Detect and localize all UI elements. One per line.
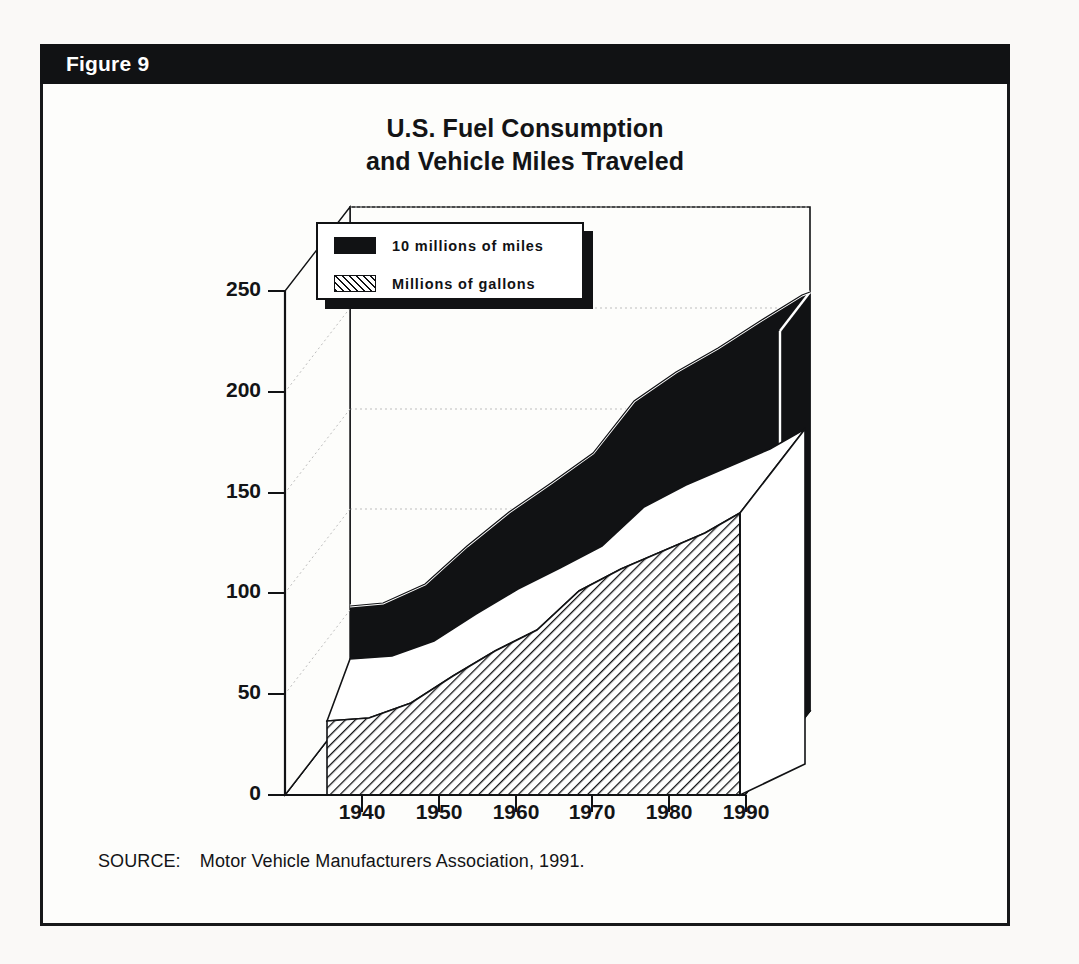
legend-swatch-gallons-icon [334, 275, 376, 292]
y-tick-label-0: 0 [195, 781, 261, 805]
figure-page: Figure 9 U.S. Fuel Consumption and Vehic… [0, 0, 1079, 964]
y-tick-label-250: 250 [195, 277, 261, 301]
legend-item-gallons: Millions of gallons [318, 267, 582, 300]
y-axis [268, 291, 285, 795]
source-note: SOURCE: Motor Vehicle Manufacturers Asso… [98, 851, 585, 872]
figure-number-label: Figure 9 [66, 50, 149, 78]
y-tick-label-50: 50 [195, 680, 261, 704]
y-tick-label-100: 100 [195, 579, 261, 603]
figure-banner [40, 44, 1010, 84]
x-tick-label-1950: 1950 [399, 800, 479, 824]
chart-legend: 10 millions of miles Millions of gallons [316, 222, 584, 300]
x-tick-label-1970: 1970 [552, 800, 632, 824]
source-key: SOURCE: [98, 851, 181, 871]
chart-canvas [40, 84, 1010, 874]
x-tick-label-1990: 1990 [706, 800, 786, 824]
x-tick-label-1960: 1960 [476, 800, 556, 824]
legend-swatch-miles-icon [334, 237, 376, 254]
x-tick-label-1980: 1980 [629, 800, 709, 824]
y-tick-label-200: 200 [195, 378, 261, 402]
legend-item-miles: 10 millions of miles [318, 229, 582, 262]
x-tick-label-1940: 1940 [322, 800, 402, 824]
legend-label-miles: 10 millions of miles [392, 238, 544, 254]
y-tick-label-150: 150 [195, 479, 261, 503]
legend-label-gallons: Millions of gallons [392, 276, 536, 292]
source-text: Motor Vehicle Manufacturers Association,… [200, 851, 585, 871]
